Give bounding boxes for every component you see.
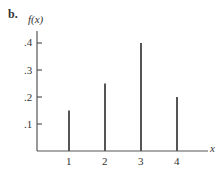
chart-plot [0,0,221,176]
